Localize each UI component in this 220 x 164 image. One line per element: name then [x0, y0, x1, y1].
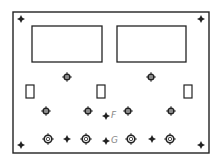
- point-label: G: [111, 136, 118, 145]
- panel-diagram: [0, 0, 220, 164]
- small-knob-icon: [85, 108, 91, 114]
- corner-marker-icon: [197, 15, 205, 23]
- small-knob-icon: [168, 108, 174, 114]
- switch: [97, 85, 105, 98]
- point-marker-icon: [102, 137, 110, 145]
- large-knob-icon: [166, 135, 174, 143]
- corner-marker-icon: [197, 141, 205, 149]
- large-knob-icon: [44, 135, 52, 143]
- small-knob-icon: [125, 108, 131, 114]
- small-knob-icon: [148, 74, 154, 80]
- dot-marker-icon: [63, 135, 71, 143]
- small-knob-icon: [43, 108, 49, 114]
- switch: [26, 85, 34, 98]
- large-knob-icon: [82, 135, 90, 143]
- outer-panel: [13, 12, 209, 153]
- large-knob-icon: [127, 135, 135, 143]
- small-knob-icon: [64, 74, 70, 80]
- dot-marker-icon: [148, 135, 156, 143]
- corner-marker-icon: [17, 141, 25, 149]
- point-label: F: [111, 111, 116, 120]
- corner-marker-icon: [17, 15, 25, 23]
- left-display: [32, 26, 102, 62]
- switch: [184, 85, 192, 98]
- point-marker-icon: [102, 112, 110, 120]
- right-display: [117, 26, 186, 62]
